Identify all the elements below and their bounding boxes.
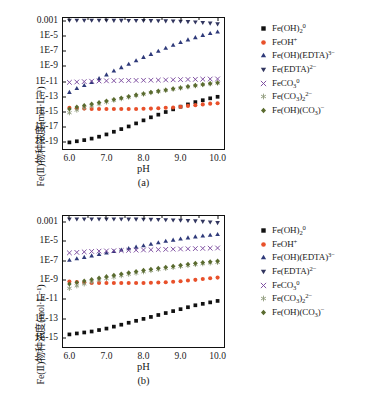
x-tick-mark-minor [87,17,88,20]
legend-label: Fe(EDTA)2− [272,267,316,276]
legend-item: FeCO30 [258,76,335,90]
x-tick-mark [69,215,70,219]
legend-a: Fe(OH)20FeOH+Fe(OH)(EDTA)3−Fe(EDTA)2−FeC… [258,22,335,117]
series-feco3 [67,77,220,85]
legend-item: Fe(EDTA)2− [258,63,335,77]
legend-label: FeOH+ [272,38,297,47]
y-tick-label: 1E-11 [35,295,58,305]
triangle-up-marker [258,252,269,263]
legend-b: Fe(OH)20FeOH+Fe(OH)(EDTA)3−Fe(EDTA)2−FeC… [258,224,335,319]
square-marker [258,225,269,236]
plot-area-a: 0.0011E-51E-71E-91E-111E-131E-151E-171E-… [62,17,225,150]
x-tick-mark-minor [199,215,200,218]
legend-item: Fe(OH)(EDTA)3− [258,251,335,265]
y-tick-mark [62,81,66,82]
legend-label: Fe(OH)(CO3)− [272,106,324,115]
y-tick-label: 1E-13 [35,314,58,324]
panel-tag-b: (b) [62,375,225,386]
circle-marker [258,37,269,48]
y-tick-mark [62,142,66,143]
legend-item: Fe(CO3)22− [258,292,335,306]
y-tick-mark [62,112,66,113]
square-marker [258,23,269,34]
y-tick-mark [62,66,66,67]
series-fe_oh_2 [68,95,220,144]
chart-panel-a: Fe(Ⅱ)物种浓度(mol·L⁻¹) 0.0011E-51E-71E-91E-1… [0,0,365,197]
triangle-up-marker [258,50,269,61]
y-tick-label: 1E-9 [40,62,58,72]
x-tick-mark-minor [124,17,125,20]
y-tick-label: 1E-19 [35,138,58,148]
circle-marker [258,239,269,250]
legend-label: FeOH+ [272,240,297,249]
legend-label: FeCO30 [272,79,300,88]
legend-item: Fe(OH)20 [258,224,335,238]
x-tick-mark [180,17,181,21]
cross-marker [258,78,269,89]
plot-canvas-a [62,17,225,150]
y-tick-mark [62,280,66,281]
legend-label: Fe(OH)(CO3)− [272,308,324,317]
legend-item: FeOH+ [258,36,335,50]
y-tick-mark [62,20,66,21]
legend-item: Fe(OH)(EDTA)3− [258,49,335,63]
panel-tag-a: (a) [62,177,225,188]
legend-item: Fe(OH)(CO3)− [258,306,335,320]
legend-label: FeCO30 [272,281,300,290]
legend-label: Fe(OH)20 [272,24,306,33]
legend-label: Fe(OH)(EDTA)3− [272,51,335,60]
cross-marker [258,280,269,291]
y-tick-label: 1E-15 [35,107,58,117]
x-tick-mark-minor [199,17,200,20]
asterisk-marker [258,91,269,102]
x-tick-mark [217,17,218,21]
y-tick-label: 1E-5 [40,236,58,246]
chart-panel-b: Fe(Ⅱ)物种浓度(mol·L⁻¹) 0.0011E-51E-71E-91E-1… [0,198,365,395]
x-tick-mark-minor [162,17,163,20]
legend-item: FeOH+ [258,238,335,252]
legend-label: Fe(OH)(EDTA)3− [272,253,335,262]
legend-label: Fe(CO3)22− [272,92,312,101]
series-fe_oh_edta [67,29,220,94]
x-tick-mark [143,17,144,21]
asterisk-marker [258,293,269,304]
y-tick-mark [62,299,66,300]
y-tick-label: 1E-15 [35,334,58,344]
x-tick-mark [69,17,70,21]
x-tick-mark [180,215,181,219]
legend-label: Fe(OH)20 [272,226,306,235]
triangle-down-marker [258,266,269,277]
diamond-marker [258,105,269,116]
y-tick-mark [62,96,66,97]
diamond-marker [258,307,269,318]
y-tick-mark [62,221,66,222]
y-tick-label: 1E-9 [40,275,58,285]
x-tick-mark [217,215,218,219]
triangle-down-marker [258,64,269,75]
legend-item: Fe(OH)20 [258,22,335,36]
y-tick-label: 0.001 [37,16,58,26]
y-tick-mark [62,36,66,37]
x-tick-mark [106,215,107,219]
x-tick-mark [143,215,144,219]
x-tick-mark-minor [162,215,163,218]
y-tick-label: 1E-5 [40,31,58,41]
legend-item: Fe(CO3)22− [258,90,335,104]
plot-canvas-b [62,215,225,348]
series-fe_oh_2 [68,299,220,336]
x-tick-mark-minor [87,215,88,218]
y-tick-mark [62,260,66,261]
y-tick-label: 0.001 [37,217,58,227]
y-tick-label: 1E-11 [35,77,58,87]
y-tick-label: 1E-7 [40,256,58,266]
x-axis-title-a: pH [62,163,225,174]
y-tick-mark [62,127,66,128]
legend-item: Fe(EDTA)2− [258,265,335,279]
legend-item: Fe(OH)(CO3)− [258,104,335,118]
legend-label: Fe(EDTA)2− [272,65,316,74]
y-tick-mark [62,241,66,242]
y-tick-mark [62,338,66,339]
y-tick-label: 1E-17 [35,122,58,132]
plot-area-b: 0.0011E-51E-71E-91E-111E-131E-156.07.08.… [62,215,225,348]
figure-container: Fe(Ⅱ)物种浓度(mol·L⁻¹) 0.0011E-51E-71E-91E-1… [0,0,365,395]
